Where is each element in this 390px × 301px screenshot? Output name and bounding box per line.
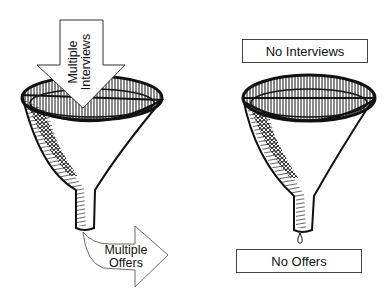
no-interviews-label: No Interviews [266, 44, 345, 59]
output-arrow-label-line2: Offers [96, 257, 156, 270]
no-interviews-box: No Interviews [242, 39, 368, 63]
no-offers-box: No Offers [236, 249, 362, 273]
drip-icon [298, 233, 303, 244]
output-arrow-label: Multiple Offers [96, 244, 156, 270]
no-offers-label: No Offers [271, 254, 326, 269]
right-funnel-icon [243, 75, 375, 232]
input-arrow-label-line2: Interviews [80, 22, 93, 102]
input-arrow-label: Multiple Interviews [67, 22, 95, 102]
